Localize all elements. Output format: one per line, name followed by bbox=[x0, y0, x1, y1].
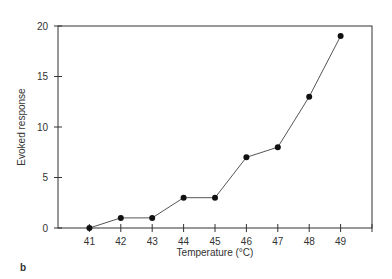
x-tick-label: 42 bbox=[115, 236, 127, 247]
y-tick-label: 10 bbox=[37, 122, 49, 133]
y-tick-label: 0 bbox=[42, 223, 48, 234]
x-tick-label: 49 bbox=[335, 236, 347, 247]
y-tick-label: 20 bbox=[37, 21, 49, 32]
x-tick-label: 41 bbox=[84, 236, 96, 247]
data-point-marker bbox=[212, 195, 218, 201]
x-axis-title: Temperature (°C) bbox=[177, 247, 254, 258]
x-tick-label: 48 bbox=[304, 236, 316, 247]
data-point-marker bbox=[275, 144, 281, 150]
x-tick-label: 43 bbox=[147, 236, 159, 247]
x-tick-label: 46 bbox=[241, 236, 253, 247]
line-chart: 05101520 414243444546474849 Temperature … bbox=[0, 0, 392, 279]
data-point-marker bbox=[181, 195, 187, 201]
y-axis-title: Evoked response bbox=[16, 88, 27, 166]
data-series bbox=[86, 33, 343, 231]
y-tick-label: 15 bbox=[37, 71, 49, 82]
x-tick-label: 45 bbox=[209, 236, 221, 247]
x-tick-label: 47 bbox=[272, 236, 284, 247]
data-point-marker bbox=[86, 225, 92, 231]
data-point-marker bbox=[306, 94, 312, 100]
x-axis: 414243444546474849 bbox=[84, 224, 372, 247]
data-point-marker bbox=[149, 215, 155, 221]
data-point-marker bbox=[118, 215, 124, 221]
panel-label: b bbox=[20, 262, 26, 273]
data-point-marker bbox=[338, 33, 344, 39]
x-tick-label: 44 bbox=[178, 236, 190, 247]
data-point-marker bbox=[243, 154, 249, 160]
y-tick-label: 5 bbox=[42, 172, 48, 183]
